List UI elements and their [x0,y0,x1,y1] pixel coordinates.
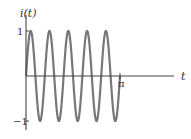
y-tick-label-1: 1 [17,26,23,37]
x-axis-label: t [181,70,186,83]
y-tick-label-neg1: −1 [13,116,28,127]
y-axis-label: i(t) [20,7,37,20]
chart: i(t) t 1 −1 π [0,0,191,139]
x-tick-label-pi: π [118,78,125,89]
